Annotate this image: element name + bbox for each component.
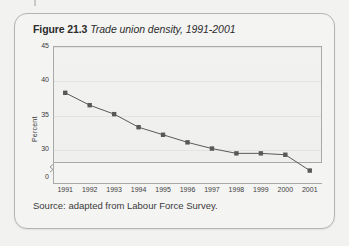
axis-break-icon <box>49 164 59 174</box>
y-axis-zero-label: 0 <box>25 173 49 180</box>
x-tick-label: 1994 <box>131 186 147 193</box>
figure-caption: Figure 21.3 Trade union density, 1991-20… <box>33 23 235 36</box>
source-note: Source: adapted from Labour Force Survey… <box>33 200 218 211</box>
page-stray-mark <box>34 0 36 6</box>
data-point-marker <box>136 125 140 129</box>
x-tick-label: 1996 <box>180 186 196 193</box>
x-tick-label: 1993 <box>106 186 122 193</box>
y-tick-label: 40 <box>23 76 49 83</box>
x-tick-label: 1999 <box>253 186 269 193</box>
data-point-marker <box>234 151 238 155</box>
x-tick-label: 1998 <box>229 186 245 193</box>
figure-number: Figure 21.3 <box>33 23 87 35</box>
figure-card: Figure 21.3 Trade union density, 1991-20… <box>14 13 335 229</box>
x-tick-label: 1997 <box>204 186 220 193</box>
data-series-trade-union-density <box>53 46 322 163</box>
data-point-marker <box>283 153 287 157</box>
x-axis-ticks: 1991199219931994199519961997199819992000… <box>53 186 322 198</box>
chart-area: Percent 45403530 0 199119921993199419951… <box>21 40 330 198</box>
data-point-marker <box>161 133 165 137</box>
x-tick-label: 2000 <box>278 186 294 193</box>
data-point-marker <box>112 112 116 116</box>
y-tick-label: 35 <box>23 111 49 118</box>
y-tick-label: 30 <box>23 145 49 152</box>
data-point-marker <box>63 91 67 95</box>
figure-title: Trade union density, 1991-2001 <box>90 23 235 35</box>
x-tick-label: 1991 <box>57 186 73 193</box>
y-tick-label: 45 <box>23 42 49 49</box>
x-tick-label: 1995 <box>155 186 171 193</box>
x-tick-label: 2001 <box>302 186 318 193</box>
y-axis-ticks: 45403530 <box>21 46 49 163</box>
x-tick-label: 1992 <box>82 186 98 193</box>
data-point-marker <box>308 168 312 172</box>
data-point-marker <box>185 140 189 144</box>
data-point-marker <box>87 103 91 107</box>
data-point-marker <box>259 151 263 155</box>
x-axis-line <box>53 183 322 184</box>
series-line <box>65 93 310 171</box>
data-point-marker <box>210 146 214 150</box>
